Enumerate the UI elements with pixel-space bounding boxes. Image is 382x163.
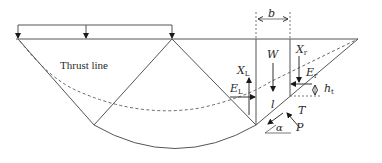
right-normal-symbol: E [306, 66, 314, 79]
right-normal-subscript: r [314, 72, 317, 80]
right-shear-subscript: r [304, 49, 307, 57]
shear-force-label: T [298, 105, 305, 116]
weight-label: W [267, 49, 278, 60]
thrust-height-label: ht [324, 83, 334, 96]
right-shear-symbol: X [296, 43, 304, 56]
left-normal-label: EL [230, 83, 243, 96]
base-length-label: l [271, 99, 275, 110]
left-shear-label: XL [237, 65, 250, 78]
normal-force-label: P [296, 122, 303, 133]
slice-width-label: b [268, 8, 275, 19]
right-shear-label: Xr [296, 44, 307, 57]
left-normal-subscript: L [238, 88, 243, 96]
right-normal-label: Er [306, 67, 317, 80]
left-shear-subscript: L [245, 70, 250, 78]
left-normal-symbol: E [230, 82, 238, 95]
thrust-height-subscript: t [331, 88, 334, 96]
left-shear-symbol: X [237, 64, 245, 77]
surcharge-load [18, 25, 172, 38]
base-angle-label: α [276, 123, 283, 133]
slope-stability-diagram: Thrust line b W XL Xr EL Er ht l T P α [0, 0, 382, 163]
thrust-line-label: Thrust line [60, 60, 108, 71]
thrust-height-dimension [290, 85, 322, 96]
